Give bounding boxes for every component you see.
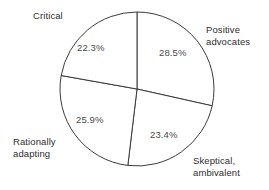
slice-label-skeptical-line-2: ambivalent [193,167,240,179]
slice-label-rationally-adapting: Rationally adapting [13,136,56,159]
slice-label-critical: Critical [33,10,63,22]
slice-label-critical-line-1: Critical [33,10,63,22]
slice-label-rational-line-1: Rationally [13,136,56,148]
pie-slices [60,12,214,166]
slice-label-skeptical-line-1: Skeptical, [193,155,240,167]
slice-value-skeptical-ambivalent: 23.4% [150,129,177,140]
slice-label-positive-advocates: Positive advocates [206,24,250,47]
slice-label-positive-line-2: advocates [206,36,250,48]
slice-value-rationally-adapting: 25.9% [76,114,103,125]
slice-label-rational-line-2: adapting [13,148,56,160]
slice-value-positive-advocates: 28.5% [159,47,186,58]
slice-label-skeptical-ambivalent: Skeptical, ambivalent [193,155,240,178]
pie-chart-figure: 28.5% 23.4% 25.9% 22.3% Critical Positiv… [0,0,269,190]
slice-value-critical: 22.3% [77,42,104,53]
slice-label-positive-line-1: Positive [206,24,250,36]
